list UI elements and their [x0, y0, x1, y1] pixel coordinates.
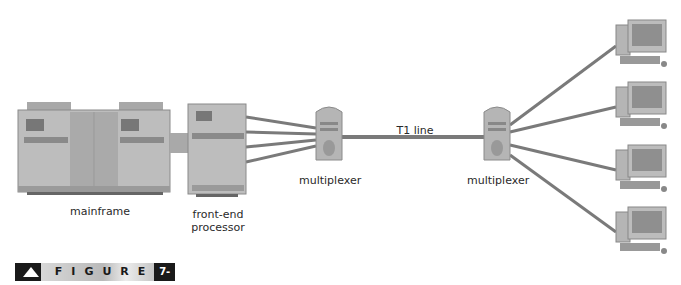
network-diagram [0, 0, 681, 285]
front-end-processor-icon [188, 104, 246, 197]
multiplexer-right-icon [484, 107, 510, 160]
figure-word: FIGURE [41, 263, 155, 281]
mux-to-pc-links [510, 46, 616, 232]
figure-number: 7-11 [154, 263, 175, 281]
pc-icon-3 [616, 145, 667, 192]
front-end-label: front-end [188, 208, 248, 221]
mainframe-icon [18, 102, 170, 195]
t1-line-label: T1 line [395, 124, 435, 137]
pc-icon-4 [616, 207, 667, 254]
pc-icon-2 [616, 82, 667, 129]
multiplexer-right-label: multiplexer [467, 174, 527, 187]
figure-caption-bar: FIGURE 7-11 [15, 263, 175, 281]
processor-label: processor [188, 221, 248, 234]
multiplexer-left-label: multiplexer [299, 174, 359, 187]
fep-to-mux-links [246, 117, 316, 162]
pc-icon-1 [616, 20, 667, 67]
triangle-icon [15, 263, 41, 281]
mainframe-label: mainframe [70, 205, 118, 218]
multiplexer-left-icon [316, 107, 342, 160]
channel-connector [170, 133, 190, 153]
